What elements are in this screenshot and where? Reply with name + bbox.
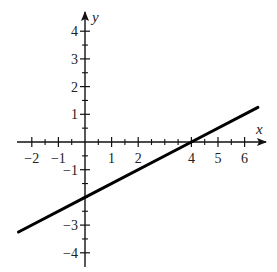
- y-tick-label: 2: [71, 80, 78, 95]
- x-tick-label: 4: [188, 151, 195, 166]
- x-tick-label: 2: [135, 151, 142, 166]
- y-tick-label: 4: [71, 24, 78, 39]
- y-tick-label: −4: [63, 246, 78, 261]
- coordinate-plane: −2−112456 4321−1−3−4 x y: [0, 0, 277, 272]
- data-line: [19, 107, 258, 232]
- y-tick-label: 1: [71, 107, 78, 122]
- x-tick-label: −2: [24, 151, 39, 166]
- series-line: [19, 107, 258, 232]
- y-tick-label: 3: [71, 52, 78, 67]
- x-tick-label: 6: [241, 151, 248, 166]
- x-tick-label: 5: [215, 151, 222, 166]
- y-tick-label: −3: [63, 218, 78, 233]
- x-tick-label: 1: [108, 151, 115, 166]
- x-axis-label: x: [255, 121, 263, 137]
- y-axis-label: y: [90, 9, 99, 25]
- y-tick-label: −1: [63, 163, 78, 178]
